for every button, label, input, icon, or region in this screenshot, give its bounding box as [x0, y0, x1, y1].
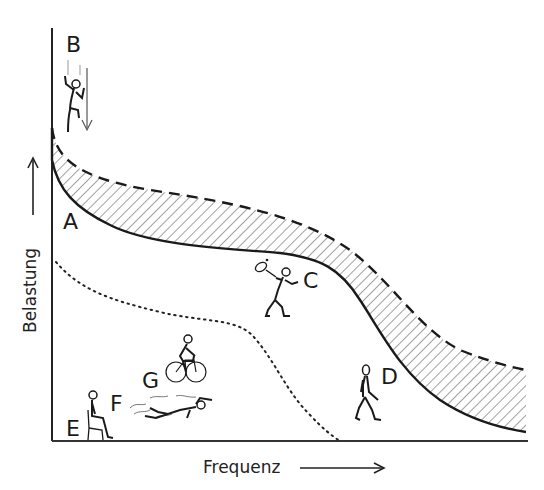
dotted-curve: [56, 262, 340, 441]
label-b: B: [66, 34, 81, 56]
label-c: C: [303, 270, 318, 292]
cyclist-icon: [166, 335, 206, 382]
label-g: G: [142, 370, 159, 392]
label-e: E: [66, 418, 80, 440]
label-f: F: [110, 393, 123, 415]
y-axis-label: Belastung: [22, 248, 39, 333]
falling-figure-icon: [65, 60, 92, 132]
label-a: A: [63, 211, 78, 233]
label-d: D: [381, 366, 398, 388]
x-axis-arrow-icon: [300, 463, 384, 473]
diagram-canvas: [0, 0, 544, 490]
walking-figure-icon: [356, 365, 381, 420]
tennis-player-icon: [254, 259, 298, 316]
diagram-figure: B A C D E F G Frequenz Belastung: [0, 0, 544, 490]
x-axis-label: Frequenz: [203, 459, 280, 476]
swimmer-icon: [130, 395, 212, 418]
y-axis-arrow-icon: [28, 158, 38, 215]
